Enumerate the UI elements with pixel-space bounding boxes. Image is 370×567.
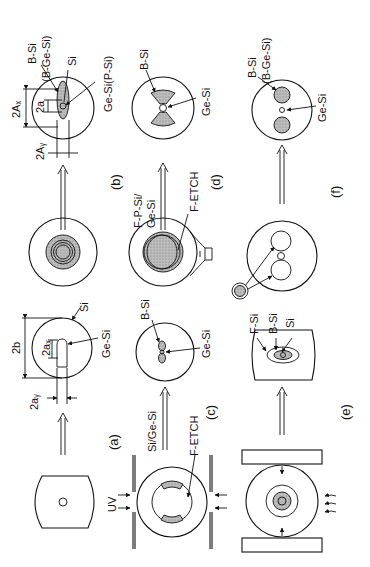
label-e-f-si: F-Si bbox=[248, 314, 260, 334]
panda-preform bbox=[232, 221, 317, 299]
step-label-f: (f) bbox=[328, 186, 343, 198]
label-b-ge-si: (B-Ge-Si) bbox=[40, 36, 52, 82]
pressing-preform bbox=[242, 450, 336, 552]
panel-d-bowtie-fiber: B-Si Ge-Si bbox=[132, 49, 212, 139]
dim-2Ay: 2Aᵧ bbox=[34, 143, 47, 160]
step-label-b: (b) bbox=[108, 174, 123, 190]
process-ge-si: Ge-Si bbox=[145, 200, 157, 228]
panel-a-fiber: 2b 2aₓ 2aᵧ Si Ge-Si bbox=[10, 302, 112, 410]
label-f-b-si: B-Si bbox=[246, 57, 258, 78]
label-e-b-si: B-Si bbox=[267, 313, 279, 334]
label-si: Si bbox=[66, 56, 78, 66]
label-e-si: Si bbox=[284, 318, 296, 328]
label-ge-si-p-si: Ge-Si(P-Si) bbox=[102, 56, 114, 112]
label-b-si: B-Si bbox=[26, 43, 38, 64]
dim-2a: 2a bbox=[34, 100, 46, 113]
label-f-b-ge-si: (B-Ge-Si) bbox=[260, 38, 272, 84]
uv-etch-preform: UV F-ETCH bbox=[106, 416, 227, 549]
label-c-b-si: B-Si bbox=[139, 299, 151, 320]
fiber-fabrication-diagram: 2Aₓ 2a 2Aᵧ B-Si (B-Ge-Si) Si Ge-Si(P-Si)… bbox=[0, 0, 370, 567]
panel-c-fiber: B-Si Ge-Si bbox=[136, 299, 212, 381]
label-d-f-etch: F-ETCH bbox=[188, 172, 200, 212]
label-c-f-etch: F-ETCH bbox=[188, 416, 200, 456]
label-uv: UV bbox=[106, 496, 118, 512]
panel-b-fiber: 2Aₓ 2a 2Aᵧ B-Si (B-Ge-Si) Si Ge-Si(P-Si) bbox=[10, 36, 114, 160]
label-d-b-si: B-Si bbox=[138, 49, 150, 70]
label-a-si: Si bbox=[78, 302, 90, 312]
base-preform bbox=[35, 476, 94, 528]
step-label-d: (d) bbox=[208, 174, 223, 190]
process-f-p-si: F-P-Si/ bbox=[132, 193, 144, 228]
dim-2b: 2b bbox=[10, 342, 22, 354]
process-arrows-upper bbox=[58, 145, 287, 230]
process-arrows-lower bbox=[58, 387, 287, 455]
step-label-c: (c) bbox=[203, 405, 218, 420]
label-c-ge-si: Ge-Si bbox=[200, 330, 212, 358]
dim-2ax: 2aₓ bbox=[40, 340, 52, 356]
dim-2Ax: 2Aₓ bbox=[10, 101, 22, 118]
panel-e-fiber: F-Si B-Si Si bbox=[248, 313, 315, 380]
step-label-e: (e) bbox=[338, 404, 353, 420]
label-f-ge-si: Ge-Si bbox=[316, 94, 328, 122]
label-a-ge-si: Ge-Si bbox=[100, 330, 112, 358]
process-si-ge-si: Si/Ge-Si bbox=[146, 411, 158, 452]
step-label-a: (a) bbox=[106, 434, 121, 450]
label-d-ge-si: Ge-Si bbox=[200, 88, 212, 116]
preform-rings bbox=[29, 218, 97, 286]
dim-2ay: 2aᵧ bbox=[28, 394, 41, 410]
panel-f-panda-fiber: B-Si (B-Ge-Si) Ge-Si bbox=[246, 38, 328, 140]
